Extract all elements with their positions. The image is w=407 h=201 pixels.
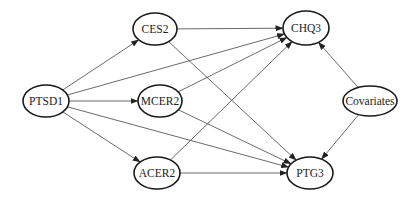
node-ptsd1: PTSD1 — [23, 85, 69, 117]
edge-ptsd1-to-ptg3 — [67, 107, 288, 167]
node-label: PTSD1 — [29, 95, 63, 107]
node-label: CES2 — [142, 23, 169, 35]
node-chq3: CHQ3 — [283, 11, 329, 45]
edge-acer2-to-chq3 — [170, 42, 292, 161]
node-mcer2: MCER2 — [138, 85, 182, 117]
node-acer2: ACER2 — [134, 157, 180, 189]
node-label: ACER2 — [139, 167, 176, 179]
path-diagram: PTSD1CES2MCER2ACER2CHQ3CovariatesPTG3 — [0, 0, 407, 201]
edge-ptsd1-to-chq3 — [67, 34, 284, 95]
node-ptg3: PTG3 — [287, 157, 333, 189]
edge-covariates-to-ptg3 — [322, 115, 359, 160]
edges-layer — [63, 28, 359, 173]
nodes-layer: PTSD1CES2MCER2ACER2CHQ3CovariatesPTG3 — [23, 11, 397, 189]
edge-covariates-to-chq3 — [319, 42, 359, 87]
node-ces2: CES2 — [133, 13, 177, 45]
edge-ces2-to-chq3 — [177, 28, 283, 29]
edge-ptsd1-to-ces2 — [63, 40, 139, 90]
node-label: Covariates — [345, 95, 395, 107]
diagram-canvas: PTSD1CES2MCER2ACER2CHQ3CovariatesPTG3 — [0, 0, 407, 201]
node-label: CHQ3 — [291, 22, 321, 34]
node-label: MCER2 — [141, 95, 180, 107]
edge-ces2-to-ptg3 — [169, 42, 297, 161]
node-label: PTG3 — [296, 167, 324, 179]
edge-mcer2-to-chq3 — [178, 38, 287, 92]
edge-mcer2-to-ptg3 — [178, 110, 291, 164]
edge-ptsd1-to-acer2 — [63, 112, 140, 162]
node-covariates: Covariates — [343, 86, 397, 116]
